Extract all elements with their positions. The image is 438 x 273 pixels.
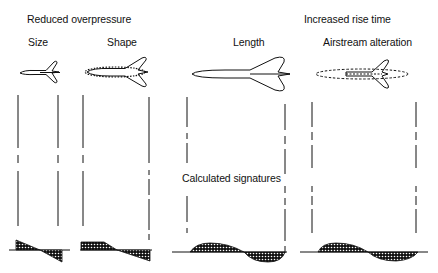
column-label-airstream-alteration: Airstream alteration — [323, 37, 412, 48]
signature-size-nwave — [9, 240, 70, 262]
aircraft-airstream-icon — [316, 60, 408, 88]
column-label-shape: Shape — [107, 37, 137, 48]
aircraft-size-icon — [20, 61, 60, 83]
header-reduced-overpressure: Reduced overpressure — [27, 14, 131, 25]
column-label-length: Length — [233, 37, 265, 48]
calculated-signatures-label: Calculated signatures — [182, 173, 281, 184]
header-increased-rise-time: Increased rise time — [304, 14, 391, 25]
signature-airstream-sine — [300, 243, 428, 261]
sonic-boom-diagram: Reduced overpressure Increased rise time… — [0, 0, 438, 273]
signature-shape-flattop — [80, 242, 152, 261]
aircraft-length-icon — [192, 57, 290, 91]
column-label-size: Size — [28, 37, 48, 48]
signature-length-sine — [172, 243, 287, 262]
aircraft-shape-icon — [85, 57, 148, 86]
